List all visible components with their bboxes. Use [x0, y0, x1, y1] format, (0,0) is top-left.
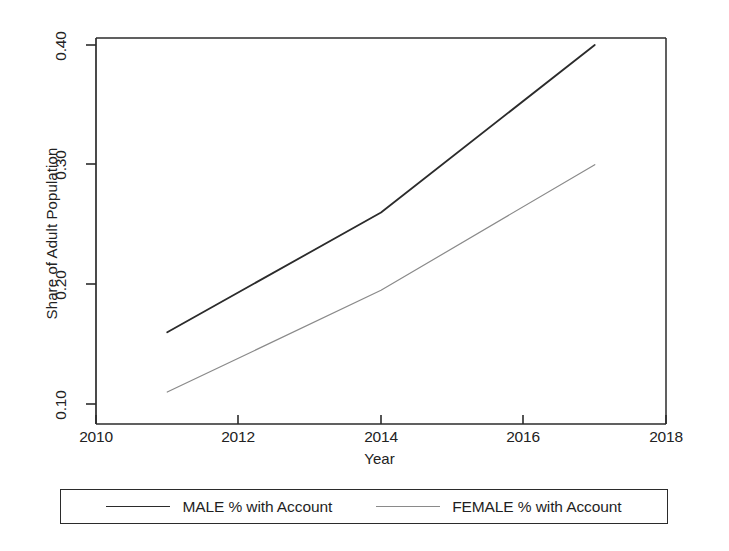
y-tick-label-040: 0.40 [52, 19, 70, 73]
legend-label-male: MALE % with Account [182, 498, 332, 516]
legend-label-female: FEMALE % with Account [452, 498, 621, 516]
x-tick-label-2014: 2014 [351, 428, 411, 446]
x-tick-label-2010: 2010 [66, 428, 126, 446]
y-tick-label-010: 0.10 [52, 378, 70, 432]
axes-frame [96, 38, 666, 424]
chart-legend: MALE % with Account FEMALE % with Accoun… [60, 489, 668, 524]
y-axis-ticks [86, 45, 96, 404]
chart-figure: Share of Adult Population 0.40 0.30 0.20… [0, 0, 729, 551]
line-chart-plot [0, 0, 729, 551]
x-tick-label-2018: 2018 [636, 428, 696, 446]
y-tick-label-020: 0.20 [52, 258, 70, 312]
x-axis-title: Year [364, 450, 394, 467]
legend-line-swatch-male [106, 506, 170, 507]
y-tick-label-030: 0.30 [52, 138, 70, 192]
legend-entry-female: FEMALE % with Account [376, 498, 621, 516]
x-tick-label-2016: 2016 [493, 428, 553, 446]
x-axis-ticks [96, 415, 666, 424]
x-axis-title-wrap: Year [0, 450, 729, 467]
series-line-male [167, 45, 595, 332]
legend-entry-male: MALE % with Account [106, 498, 332, 516]
series-line-female [167, 165, 595, 392]
x-tick-label-2012: 2012 [208, 428, 268, 446]
legend-line-swatch-female [376, 506, 440, 507]
legend-row: MALE % with Account FEMALE % with Accoun… [61, 490, 667, 523]
